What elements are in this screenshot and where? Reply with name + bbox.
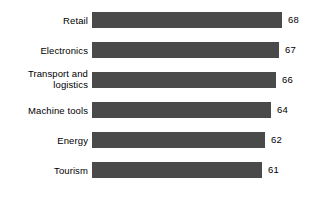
bar-retail[interactable] xyxy=(92,12,282,28)
bar-electronics[interactable] xyxy=(92,42,279,58)
value-label-tourism: 61 xyxy=(268,163,279,177)
value-label-machine-tools: 64 xyxy=(277,103,288,117)
bar-energy[interactable] xyxy=(92,132,265,148)
value-label-electronics: 67 xyxy=(285,43,296,57)
category-label-energy: Energy xyxy=(0,135,88,146)
plot-area: Retail 68 Electronics 67 Transport and l… xyxy=(0,0,317,197)
category-label-machine-tools: Machine tools xyxy=(0,105,88,116)
bar-row[interactable]: Transport and logistics 66 xyxy=(0,65,317,95)
bar-track-energy xyxy=(92,132,292,148)
category-label-tourism: Tourism xyxy=(0,165,88,176)
category-label-electronics: Electronics xyxy=(0,45,88,56)
bar-track-machine-tools xyxy=(92,102,292,118)
category-label-retail: Retail xyxy=(0,15,88,26)
bar-tourism[interactable] xyxy=(92,162,262,178)
bar-machine-tools[interactable] xyxy=(92,102,271,118)
bar-track-tourism xyxy=(92,162,292,178)
bar-row[interactable]: Electronics 67 xyxy=(0,35,317,65)
bar-chart: Retail 68 Electronics 67 Transport and l… xyxy=(0,0,317,197)
bar-transport-and-logistics[interactable] xyxy=(92,72,276,88)
value-label-retail: 68 xyxy=(288,13,299,27)
bar-track-electronics xyxy=(92,42,292,58)
bar-track-transport-and-logistics xyxy=(92,72,292,88)
category-label-transport-and-logistics: Transport and logistics xyxy=(0,69,88,90)
bar-row[interactable]: Retail 68 xyxy=(0,5,317,35)
value-label-transport-and-logistics: 66 xyxy=(282,73,293,87)
bar-row[interactable]: Energy 62 xyxy=(0,125,317,155)
bar-track-retail xyxy=(92,12,292,28)
bar-row[interactable]: Machine tools 64 xyxy=(0,95,317,125)
value-label-energy: 62 xyxy=(271,133,282,147)
bar-row[interactable]: Tourism 61 xyxy=(0,155,317,185)
